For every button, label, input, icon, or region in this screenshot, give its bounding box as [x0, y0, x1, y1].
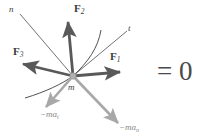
- vector-label-F2-main: F: [74, 2, 81, 14]
- vector-minus-m-a-n: [73, 76, 118, 123]
- vector-label-minus-m-a-n-sub: n: [136, 127, 139, 133]
- vector-label-minus-m-a-n: −man: [119, 123, 139, 133]
- vector-F3: [23, 64, 73, 76]
- particle-node: [70, 73, 76, 79]
- n-axis-line: [20, 14, 73, 76]
- t-axis-label: t: [128, 24, 131, 33]
- vector-label-F2-sub: 2: [81, 7, 85, 16]
- vector-label-F2: F2: [74, 3, 84, 15]
- vector-label-minus-m-a-n-main: −ma: [119, 122, 136, 132]
- vector-label-minus-m-a-t-main: −ma: [40, 109, 57, 119]
- vector-label-F1: F1: [110, 51, 120, 63]
- equation-equals-zero: = 0: [157, 58, 192, 85]
- vector-F2: [68, 22, 73, 76]
- vector-label-F1-main: F: [110, 50, 117, 62]
- path-curve-lower-icon: [25, 76, 73, 98]
- vector-label-F3-sub: 3: [20, 50, 24, 59]
- vector-label-minus-m-a-t: −mat: [40, 110, 59, 120]
- figure-canvas: n t F2 F1 F3 m −mat −man = 0: [0, 0, 200, 140]
- vector-label-F3-main: F: [13, 45, 20, 57]
- particle-mass-label: m: [68, 83, 75, 92]
- path-curve-upper-icon: [73, 30, 101, 76]
- vector-label-minus-m-a-t-sub: t: [57, 114, 59, 120]
- vector-F1: [73, 72, 120, 76]
- n-axis-label: n: [9, 5, 14, 14]
- vector-label-F3: F3: [13, 46, 23, 58]
- vector-label-F1-sub: 1: [117, 55, 121, 64]
